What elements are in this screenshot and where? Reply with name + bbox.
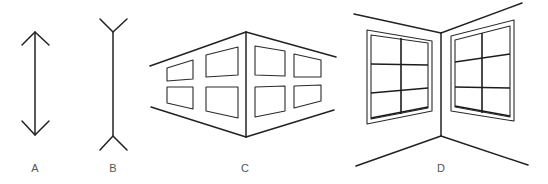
window-right-inner-top — [255, 46, 285, 76]
panel-a: A — [22, 32, 49, 174]
window-frame-inner — [371, 35, 428, 119]
window-right-outer-top — [294, 54, 321, 77]
room-window-left — [367, 30, 432, 124]
window-mullion-horizontal — [371, 88, 428, 93]
building-windows — [167, 46, 321, 118]
window-right-outer-bottom — [294, 85, 321, 108]
window-mullion-horizontal — [371, 64, 428, 65]
muller-lyer-figure: A B C — [0, 0, 548, 184]
room-corner-outline — [354, 3, 528, 166]
window-left-inner-top — [206, 47, 238, 77]
window-right-inner-bottom — [255, 86, 285, 117]
panel-a-arrow-shape — [22, 32, 49, 135]
panel-b-label: B — [109, 162, 116, 174]
window-left-outer-top — [167, 60, 193, 81]
window-left-outer-bottom — [167, 87, 193, 109]
panel-a-label: A — [31, 162, 39, 174]
window-mullion-horizontal — [455, 87, 510, 88]
panel-c: C — [150, 32, 336, 174]
window-left-inner-bottom — [206, 87, 238, 118]
panel-c-label: C — [241, 162, 249, 174]
panel-d-label: D — [437, 162, 445, 174]
panel-b-fin-shape — [100, 19, 127, 150]
window-sill-line — [371, 107, 428, 118]
building-corner-outline — [150, 32, 336, 137]
panel-b: B — [100, 19, 127, 174]
panel-d: D — [354, 3, 528, 174]
room-window-right — [451, 20, 514, 121]
window-frame-outer — [367, 30, 432, 124]
